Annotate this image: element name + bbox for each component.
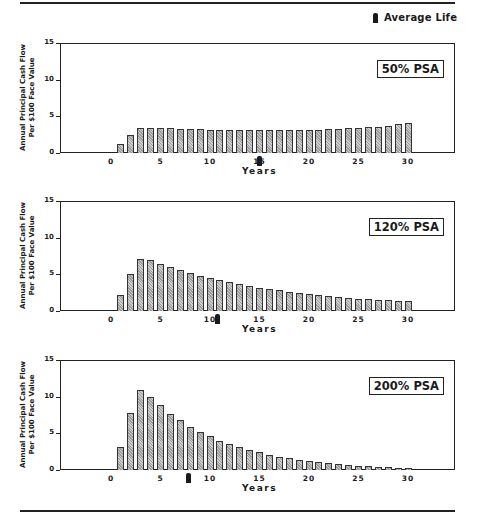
x-tick-label: 0 bbox=[101, 474, 121, 483]
bar-year-30 bbox=[405, 468, 412, 470]
bar-year-14 bbox=[246, 450, 253, 470]
bar-year-7 bbox=[177, 420, 184, 470]
y-tick-mark bbox=[56, 153, 60, 154]
average-life-marker-icon bbox=[373, 13, 378, 23]
y-tick-mark bbox=[56, 43, 60, 44]
bar-year-7 bbox=[177, 270, 184, 311]
bar-year-24 bbox=[345, 465, 352, 470]
bar-year-16 bbox=[266, 289, 273, 311]
bar-year-5 bbox=[157, 264, 164, 311]
bar-year-9 bbox=[197, 129, 204, 153]
y-tick-mark bbox=[56, 116, 60, 117]
bar-year-28 bbox=[385, 300, 392, 311]
x-axis-title: Years bbox=[230, 324, 290, 334]
bar-year-22 bbox=[325, 463, 332, 470]
x-tick-label: 30 bbox=[398, 474, 418, 483]
y-axis-label: Annual Principal Cash FlowPer $100 Face … bbox=[19, 350, 36, 480]
x-axis-title: Years bbox=[230, 483, 290, 493]
bar-year-4 bbox=[147, 397, 154, 470]
bar-year-22 bbox=[325, 296, 332, 311]
bar-year-29 bbox=[395, 301, 402, 311]
bar-year-1 bbox=[117, 447, 124, 470]
bar-year-10 bbox=[207, 278, 214, 311]
x-tick-label: 30 bbox=[398, 315, 418, 324]
average-life-marker-icon bbox=[215, 314, 220, 324]
bar-year-19 bbox=[296, 130, 303, 153]
y-tick-label: 0 bbox=[40, 465, 54, 473]
bar-year-27 bbox=[375, 127, 382, 153]
bar-year-19 bbox=[296, 460, 303, 470]
bar-year-17 bbox=[276, 130, 283, 153]
bar-year-30 bbox=[405, 123, 412, 153]
bar-year-8 bbox=[187, 129, 194, 153]
bar-year-28 bbox=[385, 126, 392, 154]
y-tick-label: 0 bbox=[40, 148, 54, 156]
bar-year-28 bbox=[385, 467, 392, 470]
y-tick-mark bbox=[56, 311, 60, 312]
bar-year-13 bbox=[236, 284, 243, 311]
y-axis-label-line2: Per $100 Face Value bbox=[27, 350, 36, 480]
y-axis-label-line2: Per $100 Face Value bbox=[27, 191, 36, 321]
x-tick-label: 25 bbox=[349, 315, 369, 324]
bar-year-8 bbox=[187, 273, 194, 311]
bar-year-19 bbox=[296, 293, 303, 311]
y-tick-label: 10 bbox=[40, 233, 54, 241]
x-tick-label: 10 bbox=[200, 474, 220, 483]
y-tick-label: 15 bbox=[40, 355, 54, 363]
bar-year-14 bbox=[246, 286, 253, 311]
x-tick-label: 15 bbox=[250, 474, 270, 483]
psa-scenario-label: 50% PSA bbox=[377, 60, 444, 78]
y-tick-label: 10 bbox=[40, 392, 54, 400]
y-axis-label-line2: Per $100 Face Value bbox=[27, 33, 36, 163]
bar-year-16 bbox=[266, 130, 273, 153]
bar-year-15 bbox=[256, 452, 263, 470]
bar-year-11 bbox=[216, 130, 223, 153]
legend-label: Average Life bbox=[384, 12, 457, 23]
bar-year-27 bbox=[375, 467, 382, 470]
y-tick-label: 15 bbox=[40, 38, 54, 46]
y-tick-label: 0 bbox=[40, 306, 54, 314]
psa-scenario-label: 200% PSA bbox=[369, 377, 444, 395]
bar-year-4 bbox=[147, 128, 154, 153]
bar-year-26 bbox=[365, 299, 372, 311]
bar-year-25 bbox=[355, 466, 362, 470]
bottom-rule bbox=[20, 510, 455, 512]
y-tick-mark bbox=[56, 470, 60, 471]
y-tick-mark bbox=[56, 433, 60, 434]
x-tick-label: 15 bbox=[250, 315, 270, 324]
bar-year-29 bbox=[395, 124, 402, 153]
bar-year-26 bbox=[365, 127, 372, 153]
bar-year-12 bbox=[226, 444, 233, 470]
bar-year-7 bbox=[177, 129, 184, 153]
x-tick-label: 10 bbox=[200, 157, 220, 166]
bar-year-16 bbox=[266, 455, 273, 470]
x-tick-label: 0 bbox=[101, 315, 121, 324]
average-life-marker-icon bbox=[186, 473, 191, 483]
bar-year-14 bbox=[246, 130, 253, 153]
x-tick-label: 5 bbox=[151, 315, 171, 324]
x-tick-label: 30 bbox=[398, 157, 418, 166]
y-axis-label: Annual Principal Cash FlowPer $100 Face … bbox=[19, 33, 36, 163]
y-axis-label: Annual Principal Cash FlowPer $100 Face … bbox=[19, 191, 36, 321]
x-tick-label: 20 bbox=[299, 474, 319, 483]
bar-year-11 bbox=[216, 280, 223, 311]
y-tick-mark bbox=[56, 360, 60, 361]
y-tick-label: 5 bbox=[40, 269, 54, 277]
x-axis-title: Years bbox=[230, 166, 290, 176]
bar-year-10 bbox=[207, 130, 214, 153]
top-rule bbox=[20, 2, 455, 4]
x-tick-label: 25 bbox=[349, 157, 369, 166]
x-tick-label: 20 bbox=[299, 315, 319, 324]
bar-year-21 bbox=[315, 295, 322, 311]
bar-year-2 bbox=[127, 413, 134, 470]
bar-year-6 bbox=[167, 414, 174, 470]
y-tick-mark bbox=[56, 80, 60, 81]
legend: Average Life bbox=[373, 12, 457, 23]
y-tick-label: 5 bbox=[40, 111, 54, 119]
bar-year-21 bbox=[315, 130, 322, 153]
bar-year-11 bbox=[216, 441, 223, 470]
bar-year-10 bbox=[207, 436, 214, 470]
bar-year-13 bbox=[236, 447, 243, 470]
y-tick-mark bbox=[56, 201, 60, 202]
bar-year-17 bbox=[276, 290, 283, 311]
